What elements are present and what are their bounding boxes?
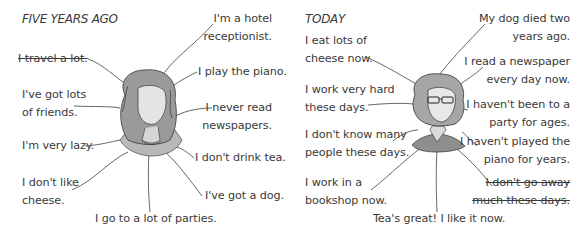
statement: I never read newspapers. [202,99,272,135]
statement: Tea's great! I like it now. [373,210,505,228]
statement: I work in a bookshop now. [305,174,387,210]
statement: My dog died two years ago. [479,10,570,46]
statement-crossed-out: I travel a lot. [18,50,88,68]
statement: I've got a dog. [205,187,284,205]
statement: I work very hard these days. [305,81,395,117]
statement: I don't drink tea. [195,149,286,167]
statement: I haven't played the piano for years. [460,133,570,169]
panel-heading: FIVE YEARS AGO [22,10,118,28]
statement: I play the piano. [198,63,287,81]
statement: I'm a hotel receptionist. [204,10,272,46]
statement-crossed-out: I don't go away much these days. [472,174,570,210]
statement: I read a newspaper every day now. [464,53,570,89]
statement: I eat lots of cheese now. [305,32,373,68]
statement: I've got lots of friends. [22,86,86,122]
statement: I don't like cheese. [22,174,79,210]
woman-with-glasses-illustration [412,74,465,152]
statement: I don't know many people these days. [305,126,409,162]
statement: I haven't been to a party for ages. [466,96,570,132]
panel-heading: TODAY [305,10,345,28]
statement: I go to a lot of parties. [95,210,217,228]
woman-curly-hair-illustration [120,70,182,156]
statement: I'm very lazy. [22,137,94,155]
